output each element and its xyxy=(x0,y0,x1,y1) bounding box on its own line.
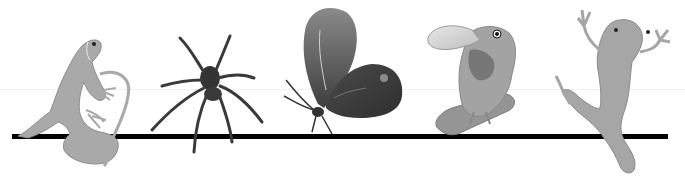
animal-illustration xyxy=(0,0,685,181)
frog-figure xyxy=(556,10,670,173)
toucan-figure xyxy=(428,26,516,135)
butterfly-figure xyxy=(284,8,402,134)
illustration-svg xyxy=(0,0,685,181)
lizard-figure xyxy=(18,40,129,166)
